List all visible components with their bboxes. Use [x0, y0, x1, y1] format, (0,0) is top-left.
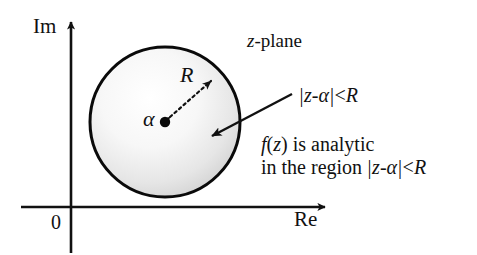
- note-line-2-prefix: in the region: [261, 156, 367, 178]
- complex-plane-figure: Im Re 0 z-plane α R |z-α|<R f(z) is anal…: [0, 0, 477, 255]
- callout-alpha: α: [318, 84, 329, 106]
- callout-less-than: <: [335, 84, 346, 106]
- origin-label: 0: [51, 212, 61, 232]
- note-alpha: α: [387, 156, 398, 178]
- note-variable-z-2: z: [372, 156, 380, 178]
- callout-variable-z: z: [304, 84, 312, 106]
- note-less-than: <: [403, 156, 414, 178]
- analytic-note: f(z) is analytic in the region |z-α|<R: [261, 134, 426, 180]
- note-variable-z: z: [273, 133, 281, 155]
- z-plane-label: z-plane: [247, 31, 302, 50]
- radius-label-R: R: [180, 64, 193, 86]
- diagram-canvas: [0, 0, 477, 255]
- real-axis-label: Re: [294, 209, 317, 230]
- callout-radius-R: R: [346, 84, 358, 106]
- analytic-note-line-2: in the region |z-α|<R: [261, 157, 426, 177]
- center-label-alpha: α: [143, 108, 155, 130]
- analytic-note-line-1: f(z) is analytic: [261, 134, 426, 154]
- callout-inequality: |z-α|<R: [299, 85, 358, 105]
- center-point-alpha: [160, 117, 170, 127]
- imaginary-axis-label: Im: [33, 16, 56, 37]
- z-plane-suffix: -plane: [254, 30, 301, 51]
- note-radius-R: R: [414, 156, 426, 178]
- paren-close: ): [281, 133, 288, 155]
- note-line-1-rest: is analytic: [288, 133, 375, 155]
- note-minus: -: [380, 156, 387, 178]
